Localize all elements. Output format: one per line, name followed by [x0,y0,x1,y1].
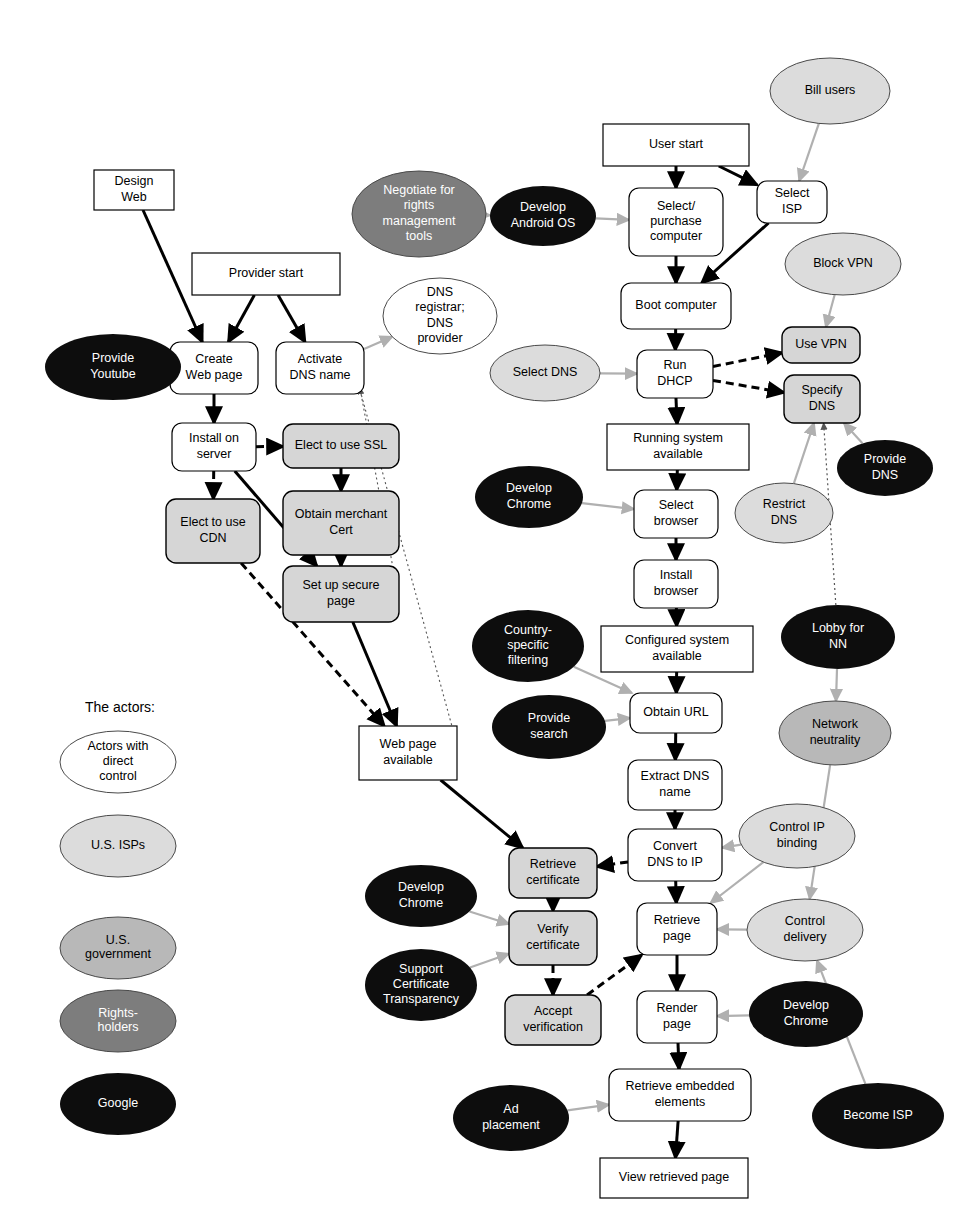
node-specify-dns[interactable]: SpecifyDNS [784,375,860,423]
node-retrieve-certificate[interactable]: Retrievecertificate [509,848,597,898]
node-retrieve-page[interactable]: Retrievepage [637,903,717,955]
actor-block-vpn[interactable]: Block VPN [785,233,901,295]
edge-support-cert-transparency-to-verify-certificate [470,954,509,968]
edge-render-page-to-retrieve-embedded-elements [678,1043,679,1069]
actor-label-control-ip-binding: Control IPbinding [769,821,825,850]
node-accept-verification[interactable]: Acceptverification [505,995,601,1045]
actor-develop-android-os[interactable]: DevelopAndroid OS [490,186,596,246]
actor-country-specific-filtering[interactable]: Country-specificfiltering [472,610,584,682]
node-design-web[interactable]: DesignWeb [94,170,174,210]
node-activate-dns-name[interactable]: ActivateDNS name [276,342,364,394]
actor-label-develop-chrome-2: DevelopChrome [398,881,444,910]
node-label-select-browser: Selectbrowser [654,499,698,528]
node-install-browser[interactable]: Installbrowser [634,560,718,608]
actor-label-control-delivery: Controldelivery [783,915,827,944]
actor-become-isp[interactable]: Become ISP [812,1083,944,1149]
legend-item-3: Rights-holders [60,990,176,1052]
actor-lobby-for-nn[interactable]: Lobby forNN [781,605,895,669]
edge-activate-dns-name-to-dns-registrar [364,337,392,349]
legend-label-4: Google [98,1096,138,1110]
actor-provide-youtube[interactable]: ProvideYoutube [45,334,181,400]
actor-select-dns[interactable]: Select DNS [490,345,600,401]
node-verify-certificate[interactable]: Verifycertificate [509,911,597,965]
node-label-web-page-available: Web pageavailable [380,738,437,767]
edge-lobby-for-nn-to-network-neutrality [836,669,837,701]
node-configured-system-available[interactable]: Configured systemavailable [601,626,753,672]
node-label-user-start: User start [649,137,704,151]
actor-restrict-dns[interactable]: RestrictDNS [735,483,833,543]
node-web-page-available[interactable]: Web pageavailable [359,726,457,780]
actor-provide-search[interactable]: Providesearch [492,695,606,759]
node-label-provider-start: Provider start [229,266,304,280]
node-render-page[interactable]: Renderpage [637,991,717,1043]
edge-provider-start-to-create-web-page [228,295,254,342]
node-running-system-available[interactable]: Running systemavailable [607,424,749,470]
node-label-select-purchase-computer: Select/purchasecomputer [650,199,702,244]
actor-ad-placement[interactable]: Adplacement [453,1085,569,1151]
node-use-vpn[interactable]: Use VPN [782,327,860,363]
node-create-web-page[interactable]: CreateWeb page [170,342,258,394]
actor-negotiate-rights[interactable]: Negotiate forrightsmanagementtools [352,171,486,257]
edge-retrieve-embedded-elements-to-view-retrieved-page [675,1121,678,1158]
node-convert-dns-to-ip[interactable]: ConvertDNS to IP [628,829,722,881]
edge-ad-placement-to-retrieve-embedded-elements [567,1105,609,1111]
actor-network-neutrality[interactable]: Networkneutrality [779,701,891,765]
node-obtain-url[interactable]: Obtain URL [630,693,722,733]
edge-provide-dns-to-specify-dns [844,423,863,443]
node-boot-computer[interactable]: Boot computer [621,283,731,329]
node-label-activate-dns-name: ActivateDNS name [289,353,350,382]
node-view-retrieved-page[interactable]: View retrieved page [600,1158,748,1198]
node-select-isp[interactable]: SelectISP [757,181,827,223]
legend-label-3: Rights-holders [98,1006,139,1035]
edge-convert-dns-to-ip-to-retrieve-certificate [597,862,628,867]
node-label-retrieve-certificate: Retrievecertificate [526,858,580,887]
actor-support-cert-transparency[interactable]: SupportCertificateTransparency [365,949,477,1021]
node-obtain-merchant-cert[interactable]: Obtain merchantCert [283,491,399,555]
node-select-browser[interactable]: Selectbrowser [634,490,718,538]
edge-provide-search-to-obtain-url [605,718,630,721]
edge-bill-users-to-select-isp [799,123,819,181]
node-user-start[interactable]: User start [603,124,749,166]
node-run-dhcp[interactable]: RunDHCP [637,350,713,398]
node-elect-to-use-cdn[interactable]: Elect to useCDN [166,499,260,563]
actor-label-develop-android-os: DevelopAndroid OS [511,201,576,230]
edge-web-page-available-to-retrieve-certificate [441,780,523,848]
node-install-on-server[interactable]: Install onserver [172,423,256,471]
legend-layer: The actors:Actors withdirectcontrolU.S. … [60,699,176,1135]
actor-label-become-isp: Become ISP [843,1108,912,1122]
actor-label-provide-search: Providesearch [528,712,570,741]
node-label-install-browser: Installbrowser [654,569,698,598]
actor-label-develop-chrome-1: DevelopChrome [506,482,552,511]
actor-dns-registrar[interactable]: DNSregistrar;DNSprovider [383,278,497,354]
node-label-elect-to-use-ssl: Elect to use SSL [295,438,387,452]
actor-control-delivery[interactable]: Controldelivery [747,899,863,961]
actor-develop-chrome-2[interactable]: DevelopChrome [365,865,477,927]
edge-set-up-secure-page-to-web-page-available [353,622,397,726]
legend-item-0: Actors withdirectcontrol [60,731,176,793]
actor-label-develop-chrome-3: DevelopChrome [783,999,829,1028]
legend-item-1: U.S. ISPs [60,815,176,877]
edge-control-ip-binding-to-convert-dns-to-ip [722,845,741,848]
actor-label-country-specific-filtering: Country-specificfiltering [504,623,552,668]
actor-control-ip-binding[interactable]: Control IPbinding [739,804,855,868]
node-set-up-secure-page[interactable]: Set up securepage [283,566,399,622]
actor-label-provide-youtube: ProvideYoutube [90,352,135,381]
node-elect-to-use-ssl[interactable]: Elect to use SSL [283,424,399,468]
actor-label-bill-users: Bill users [805,83,856,97]
actor-provide-dns[interactable]: ProvideDNS [837,440,933,496]
node-extract-dns-name[interactable]: Extract DNSname [628,760,722,810]
node-retrieve-embedded-elements[interactable]: Retrieve embeddedelements [609,1069,751,1121]
actor-develop-chrome-3[interactable]: DevelopChrome [749,981,863,1047]
node-label-convert-dns-to-ip: ConvertDNS to IP [647,840,703,869]
node-label-boot-computer: Boot computer [635,298,716,312]
edge-block-vpn-to-use-vpn [826,295,835,327]
node-provider-start[interactable]: Provider start [192,253,340,295]
node-select-purchase-computer[interactable]: Select/purchasecomputer [629,188,723,256]
node-label-view-retrieved-page: View retrieved page [619,1170,729,1184]
legend-label-1: U.S. ISPs [91,838,145,852]
actor-develop-chrome-1[interactable]: DevelopChrome [475,466,583,528]
actor-bill-users[interactable]: Bill users [770,58,890,124]
node-layer: DesignWebProvider startCreateWeb pageAct… [94,124,860,1198]
edge-develop-chrome-2-to-verify-certificate [470,911,509,924]
actor-label-select-dns: Select DNS [513,365,578,379]
